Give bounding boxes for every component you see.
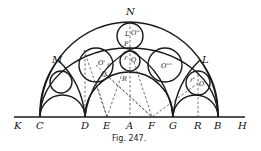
left-arch-d <box>58 60 85 117</box>
center-arch-right <box>130 50 173 117</box>
label-e: E <box>102 120 111 131</box>
circle-left-small <box>50 71 72 93</box>
dash-e-left <box>97 85 107 117</box>
label-R: R <box>121 75 127 83</box>
label-k: K <box>13 120 22 131</box>
dash-e-r <box>107 74 122 117</box>
label-n: N <box>125 6 136 17</box>
label-d: D <box>80 120 89 131</box>
right-small-arc <box>173 95 218 117</box>
label-center-o: O <box>131 56 137 64</box>
label-right-small-r: r' <box>190 76 195 84</box>
label-b: B <box>213 120 221 131</box>
label-center-r: r <box>124 54 128 62</box>
right-arch-g <box>173 60 200 117</box>
label-c: C <box>36 120 44 131</box>
figure-caption: Fig. 247. <box>112 134 146 143</box>
label-r: R <box>193 120 202 131</box>
geometry-figure: N M L L O'' P r O R O' r Q O''' r' O K C… <box>0 0 261 151</box>
left-arch-c <box>40 60 58 117</box>
label-top-p: P <box>123 40 129 48</box>
label-h: H <box>237 120 247 131</box>
label-l: L <box>201 54 209 65</box>
label-left-o: O' <box>98 59 105 67</box>
label-a: A <box>125 120 133 131</box>
label-top-o: O'' <box>131 29 140 37</box>
left-small-arc <box>40 95 85 117</box>
dash-right-f <box>152 83 198 117</box>
label-q: Q <box>101 70 107 78</box>
label-top-l: L <box>124 30 129 38</box>
label-f: F <box>147 120 156 131</box>
label-right-small-o: O <box>199 80 205 88</box>
label-right-big-o: O''' <box>161 62 172 70</box>
label-m: M <box>51 54 63 65</box>
label-g: G <box>169 120 177 131</box>
